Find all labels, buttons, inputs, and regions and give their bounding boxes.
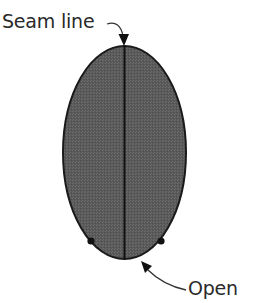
left-dot-marker: [87, 237, 94, 244]
seam-line-arrow-icon: [107, 23, 129, 46]
open-label: Open: [188, 279, 238, 298]
right-dot-marker: [157, 237, 164, 244]
seam-line-label: Seam line: [2, 12, 94, 31]
diagram-canvas: [0, 0, 256, 303]
open-arrow-icon: [141, 261, 186, 290]
seam-diagram: Seam line Open: [0, 0, 256, 303]
